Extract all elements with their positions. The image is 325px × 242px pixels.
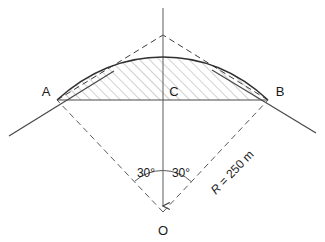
label-angle-left: 30° <box>137 166 155 180</box>
label-point-o: O <box>158 223 168 238</box>
curve-diagram-canvas: A B C O 30° 30° R = 250 m <box>0 0 325 242</box>
tangent-back-right <box>212 70 316 133</box>
label-angle-right: 30° <box>172 166 190 180</box>
label-point-a: A <box>42 84 51 99</box>
label-radius-group: R = 250 m <box>208 147 257 197</box>
circular-curve-diagram: A B C O 30° 30° R = 250 m <box>0 0 325 242</box>
label-point-b: B <box>276 84 285 99</box>
tangent-back-left <box>9 71 114 136</box>
label-radius-value: = 250 m <box>216 147 256 188</box>
svg-text:R = 250 m: R = 250 m <box>208 147 257 197</box>
label-point-c: C <box>169 84 178 99</box>
radius-line-o-to-a <box>57 100 163 212</box>
